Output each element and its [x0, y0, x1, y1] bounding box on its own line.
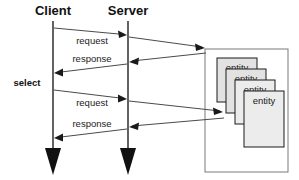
message-server-to-entity-1	[129, 37, 205, 51]
diagram-canvas: Client Server select request	[0, 0, 299, 180]
message-response-1: response	[54, 53, 127, 77]
lifeline-server-arrowhead	[120, 148, 136, 175]
entity-label-4: entity	[253, 95, 276, 106]
sequence-diagram: Client Server select request	[0, 0, 299, 180]
annotation-select: select	[14, 77, 42, 88]
message-label-request-2: request	[76, 97, 108, 108]
entity-box-4: entity	[244, 91, 284, 147]
message-request-2: request	[54, 90, 127, 108]
message-entity-to-server-1	[129, 53, 206, 65]
message-label-response-2: response	[72, 118, 111, 129]
message-response-2: response	[54, 118, 127, 142]
message-label-request-1: request	[76, 35, 108, 46]
lifeline-title-client: Client	[35, 3, 72, 18]
message-request-1: request	[54, 28, 127, 46]
lifeline-client-arrowhead	[45, 148, 61, 175]
lifeline-title-server: Server	[108, 3, 148, 18]
message-label-response-1: response	[72, 53, 111, 64]
